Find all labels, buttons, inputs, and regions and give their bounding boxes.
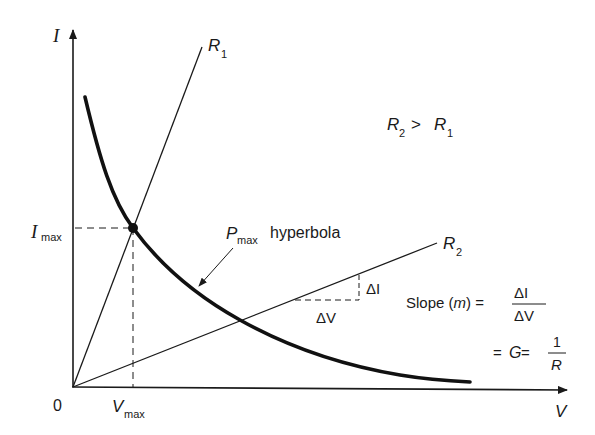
svg-text:I: I — [30, 221, 39, 242]
svg-text:Slope (m) =: Slope (m) = — [406, 294, 484, 311]
origin-label: 0 — [53, 397, 62, 414]
r2-label: R 2 — [443, 234, 462, 258]
max-power-point — [128, 223, 138, 233]
svg-text:max: max — [124, 408, 145, 420]
iv-diagram: I V 0 R 1 R 2 R 2 > R 1 I max V max P ma… — [0, 0, 595, 435]
svg-text:max: max — [237, 234, 258, 246]
svg-text:hyperbola: hyperbola — [270, 224, 340, 241]
svg-text:>: > — [411, 115, 421, 134]
relation-label: R 2 > R 1 — [387, 115, 453, 139]
svg-text:R: R — [443, 234, 455, 253]
svg-text:ΔV: ΔV — [514, 307, 534, 324]
r2-line — [73, 243, 437, 387]
r1-line — [73, 47, 202, 387]
svg-text:=: = — [493, 344, 502, 361]
slope-formula: Slope (m) = ΔI ΔV — [406, 284, 546, 324]
svg-text:1: 1 — [553, 334, 561, 350]
svg-text:ΔI: ΔI — [514, 284, 528, 301]
delta-v-label: ΔV — [316, 309, 336, 326]
svg-text:R: R — [208, 36, 220, 55]
y-axis-label: I — [52, 25, 61, 46]
imax-label: I max — [30, 221, 62, 243]
svg-text:2: 2 — [399, 127, 405, 139]
svg-text:=: = — [521, 344, 530, 361]
pmax-hyperbola-label: P max hyperbola — [226, 224, 340, 246]
svg-text:G: G — [509, 344, 521, 361]
conductance-formula: = G = 1 R — [493, 334, 566, 373]
hyperbola-pointer-arrow — [199, 248, 233, 286]
svg-text:2: 2 — [456, 246, 462, 258]
x-axis-label: V — [555, 402, 568, 421]
r1-label: R 1 — [208, 36, 227, 60]
vmax-label: V max — [112, 397, 145, 420]
svg-text:R: R — [551, 356, 562, 373]
x-axis — [72, 387, 567, 390]
delta-i-label: ΔI — [366, 280, 380, 297]
svg-text:R: R — [387, 115, 399, 134]
svg-text:max: max — [41, 231, 62, 243]
svg-text:1: 1 — [221, 48, 227, 60]
svg-text:1: 1 — [447, 127, 453, 139]
svg-text:R: R — [434, 115, 446, 134]
